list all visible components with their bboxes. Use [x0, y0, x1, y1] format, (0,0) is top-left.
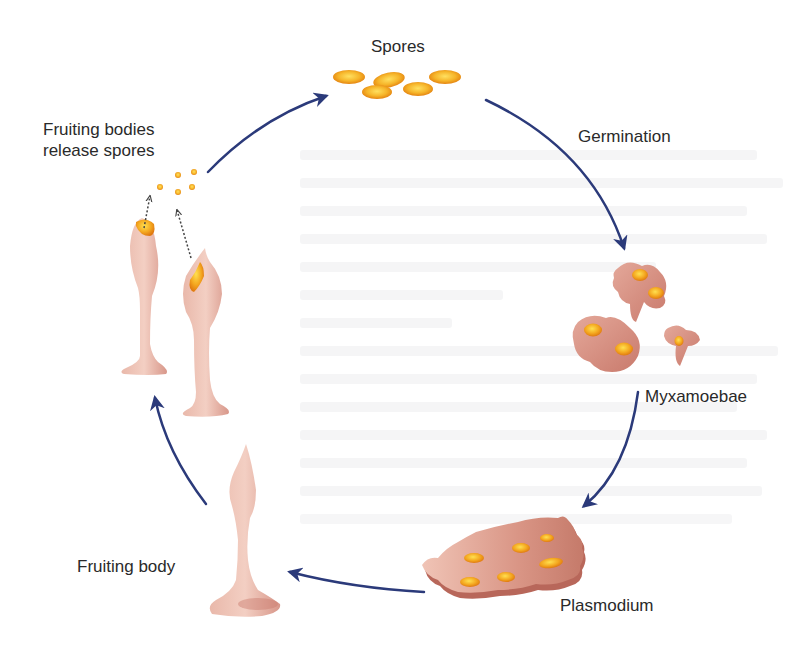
label-plasmodium: Plasmodium [560, 595, 654, 616]
fruiting-body-illustration [210, 444, 280, 617]
label-fruiting-body: Fruiting body [77, 556, 175, 577]
arrow-myxamoebae-to-plasmodium [584, 392, 638, 506]
life-cycle-diagram: Spores Germination Myxamoebae Plasmodium… [0, 0, 808, 645]
fruiting-bodies-release-illustration [121, 169, 229, 417]
myxamoebae-illustration [573, 262, 700, 372]
arrow-plasmodium-to-fruiting-body [290, 572, 424, 592]
spores-illustration [333, 69, 461, 99]
arrow-spores-to-myxamoebae [486, 100, 624, 248]
label-myxamoebae: Myxamoebae [645, 386, 747, 407]
plasmodium-illustration [422, 516, 586, 598]
label-germination: Germination [578, 126, 671, 147]
label-spores: Spores [371, 36, 425, 57]
label-fruiting-bodies-release-line2: release spores [43, 140, 155, 161]
label-fruiting-bodies-release-line1: Fruiting bodies [43, 119, 155, 140]
arrow-release-to-spores [208, 96, 326, 172]
